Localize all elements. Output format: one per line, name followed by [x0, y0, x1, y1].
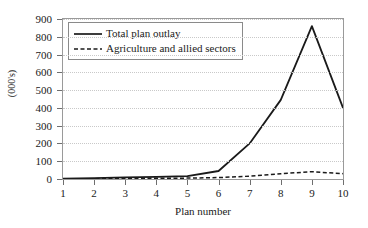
- gridline: [63, 72, 343, 73]
- y-tick-mark: [57, 90, 62, 91]
- y-tick-label: 500: [36, 85, 53, 96]
- x-tick-mark: [312, 180, 313, 185]
- y-tick-label: 800: [36, 31, 53, 42]
- x-tick-mark: [187, 180, 188, 185]
- y-tick-mark: [57, 108, 62, 109]
- y-tick-label: 0: [47, 174, 53, 185]
- x-tick-mark: [156, 180, 157, 185]
- legend-item-label: Agriculture and allied sectors: [106, 43, 236, 54]
- gridline: [63, 108, 343, 109]
- x-tick-label: 7: [247, 188, 253, 199]
- y-tick-label: 600: [36, 67, 53, 78]
- y-tick-mark: [57, 161, 62, 162]
- chart-figure: (000's) 0100200300400500600700800900 Tot…: [0, 0, 368, 228]
- gridline: [63, 143, 343, 144]
- y-tick-mark: [57, 37, 62, 38]
- y-tick-mark: [57, 126, 62, 127]
- x-tick-mark: [343, 180, 344, 185]
- x-tick-mark: [250, 180, 251, 185]
- legend-line-dashed-icon: [73, 44, 103, 54]
- x-tick-label: 1: [60, 188, 66, 199]
- y-tick-mark: [57, 55, 62, 56]
- gridline: [63, 126, 343, 127]
- gridline: [63, 37, 343, 38]
- gridline: [63, 55, 343, 56]
- x-tick-label: 2: [91, 188, 97, 199]
- legend-item: Total plan outlay: [73, 26, 236, 41]
- gridline: [63, 19, 343, 20]
- x-tick-mark: [219, 180, 220, 185]
- plot-area: Total plan outlay Agriculture and allied…: [62, 18, 344, 180]
- y-axis-tick-labels: 0100200300400500600700800900: [0, 18, 57, 180]
- x-tick-label: 4: [154, 188, 160, 199]
- gridline: [63, 161, 343, 162]
- y-tick-label: 200: [36, 138, 53, 149]
- x-tick-mark: [63, 180, 64, 185]
- y-tick-label: 300: [36, 120, 53, 131]
- x-axis-title: Plan number: [62, 205, 344, 217]
- y-tick-mark: [57, 72, 62, 73]
- y-tick-mark: [57, 179, 62, 180]
- gridline: [63, 90, 343, 91]
- x-tick-label: 3: [122, 188, 128, 199]
- y-tick-mark: [57, 143, 62, 144]
- x-tick-label: 6: [216, 188, 222, 199]
- y-tick-label: 100: [36, 156, 53, 167]
- y-tick-label: 400: [36, 102, 53, 113]
- x-tick-label: 10: [338, 188, 349, 199]
- x-tick-label: 5: [185, 188, 191, 199]
- y-tick-label: 700: [36, 49, 53, 60]
- x-tick-label: 8: [278, 188, 284, 199]
- x-tick-mark: [94, 180, 95, 185]
- x-tick-mark: [281, 180, 282, 185]
- x-tick-mark: [125, 180, 126, 185]
- x-tick-label: 9: [309, 188, 315, 199]
- y-tick-mark: [57, 19, 62, 20]
- y-tick-label: 900: [36, 14, 53, 25]
